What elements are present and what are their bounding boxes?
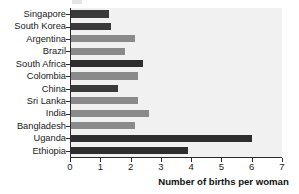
bar-row <box>70 8 282 20</box>
bar-chart: SingaporeSouth KoreaArgentinaBrazilSouth… <box>0 0 299 194</box>
bar <box>70 48 125 55</box>
bar <box>70 147 188 154</box>
y-axis-line <box>70 8 71 157</box>
bar-row <box>70 83 282 95</box>
y-axis-label: South Korea <box>2 21 66 31</box>
top-edge-artifact <box>72 0 82 4</box>
y-axis-label: South Africa <box>2 59 66 69</box>
y-axis-labels: SingaporeSouth KoreaArgentinaBrazilSouth… <box>0 0 66 194</box>
y-axis-label: Singapore <box>2 9 66 19</box>
bar-row <box>70 145 282 157</box>
y-axis-label: Ethiopia <box>2 146 66 156</box>
bar <box>70 72 138 79</box>
y-axis-label: Brazil <box>2 46 66 56</box>
bar <box>70 122 135 129</box>
bar-row <box>70 20 282 32</box>
y-axis-label: Uganda <box>2 133 66 143</box>
y-axis-tick <box>66 114 70 115</box>
bar-row <box>70 107 282 119</box>
y-axis-label: India <box>2 108 66 118</box>
plot-area <box>70 8 282 157</box>
y-axis-tick <box>66 138 70 139</box>
x-axis-title: Number of births per woman <box>148 176 299 187</box>
bar <box>70 85 118 92</box>
bar <box>70 60 143 67</box>
y-axis-label: Bangladesh <box>2 121 66 131</box>
bar <box>70 97 138 104</box>
x-axis-tick-label: 4 <box>181 161 201 172</box>
x-axis-tick-label: 6 <box>242 161 262 172</box>
x-axis-tick-label: 3 <box>151 161 171 172</box>
y-axis-label: Colombia <box>2 71 66 81</box>
x-axis-tick-label: 2 <box>121 161 141 172</box>
y-axis-tick <box>66 39 70 40</box>
bar-row <box>70 120 282 132</box>
bar <box>70 10 109 17</box>
y-axis-label: Sri Lanka <box>2 96 66 106</box>
bar-row <box>70 132 282 144</box>
bar-row <box>70 95 282 107</box>
y-axis-tick <box>66 14 70 15</box>
bar-row <box>70 33 282 45</box>
bar <box>70 35 135 42</box>
y-axis-tick <box>66 89 70 90</box>
bar <box>70 110 149 117</box>
bar <box>70 135 252 142</box>
bar-row <box>70 58 282 70</box>
y-axis-tick <box>66 101 70 102</box>
y-axis-tick <box>66 51 70 52</box>
y-axis-tick <box>66 64 70 65</box>
bar <box>70 23 111 30</box>
x-axis-tick-label: 0 <box>60 161 80 172</box>
y-axis-label: Argentina <box>2 34 66 44</box>
y-axis-tick <box>66 126 70 127</box>
x-axis-tick-label: 1 <box>90 161 110 172</box>
y-axis-label: China <box>2 84 66 94</box>
x-axis-tick-label: 7 <box>272 161 292 172</box>
bar-row <box>70 45 282 57</box>
y-axis-tick <box>66 76 70 77</box>
x-axis-tick-label: 5 <box>211 161 231 172</box>
y-axis-tick <box>66 151 70 152</box>
bar-row <box>70 70 282 82</box>
x-axis-line <box>70 157 282 158</box>
y-axis-tick <box>66 27 70 28</box>
